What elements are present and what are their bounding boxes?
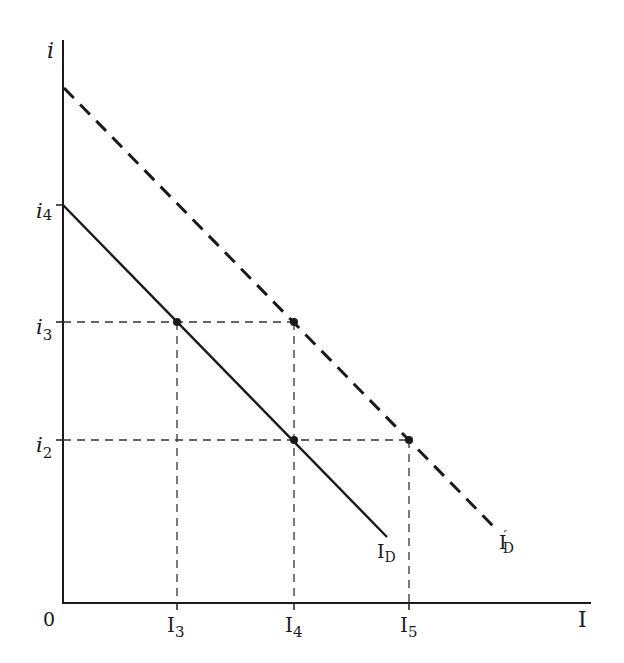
y-axis-label: i: [47, 38, 54, 63]
point-i3-I3: [173, 318, 181, 326]
y-label-i4: i4: [36, 199, 52, 224]
curve-label-ID: ID: [377, 540, 396, 565]
point-i3-I4: [290, 318, 298, 326]
y-label-i2: i2: [36, 433, 52, 462]
point-i2-I5: [405, 436, 413, 444]
x-axis-label: I: [578, 607, 587, 632]
curve-ID-prime-dashed: [64, 88, 497, 530]
origin-label: 0: [43, 608, 55, 630]
x-label-I4: I4: [285, 613, 302, 641]
guide-lines: [63, 322, 409, 603]
curve-ID-solid: [63, 205, 387, 537]
x-label-I5: I5: [400, 613, 417, 641]
diagram-canvas: i I 0 i4 i3 i2 I3 I4 I5 ID I′D: [0, 0, 624, 663]
point-i2-I4: [290, 436, 298, 444]
x-label-I3: I3: [167, 613, 184, 641]
curve-label-ID-prime: I′D: [499, 528, 514, 556]
y-label-i3: i3: [36, 315, 52, 344]
